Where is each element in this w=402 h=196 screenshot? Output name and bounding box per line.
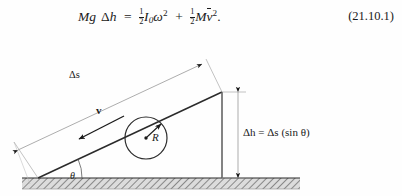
- fraction-numerator: 1: [139, 8, 143, 17]
- equation-number: (21.10.1): [348, 9, 394, 24]
- delta-s-dimension: [14, 59, 222, 184]
- angle-theta-arc: [78, 160, 82, 179]
- equation-gravity-symbol: g: [89, 9, 96, 24]
- ground-surface: [22, 178, 300, 189]
- rolling-disk: [125, 117, 167, 159]
- delta-s-label: Δs: [69, 70, 80, 81]
- equation-period: .: [217, 9, 220, 24]
- figure-page: Mg Δh = 1 2 I0ω2 + 1 2 Mv2. (21.10.1): [0, 0, 402, 196]
- fraction-denominator: 2: [139, 17, 143, 27]
- equation-equals-sign: =: [120, 9, 136, 24]
- equation-expression: Mg Δh = 1 2 I0ω2 + 1 2 Mv2.: [78, 8, 221, 26]
- fraction-numerator: 1: [190, 8, 194, 17]
- equation-one-half-second: 1 2: [190, 8, 194, 26]
- equation-mass-symbol-second: M: [195, 9, 206, 24]
- equation-one-half-first: 1 2: [139, 8, 143, 26]
- theta-label: θ: [70, 171, 75, 181]
- equation-omega-symbol: ω: [153, 9, 163, 24]
- equation-plus-sign: +: [171, 9, 187, 24]
- equation-height-symbol: h: [110, 9, 117, 24]
- equation-row: Mg Δh = 1 2 I0ω2 + 1 2 Mv2. (21.10.1): [0, 8, 402, 34]
- velocity-vector: [79, 116, 124, 139]
- incline-wedge: [38, 92, 222, 178]
- delta-h-label: Δh = Δs (sin θ): [243, 127, 310, 138]
- equation-delta-symbol: Δ: [101, 9, 110, 24]
- velocity-label: v: [96, 105, 102, 116]
- fraction-denominator: 2: [190, 17, 194, 27]
- inclined-plane-diagram: Δs v R Δh = Δs (sin θ) θ: [0, 34, 402, 196]
- equation-mass-symbol: M: [78, 9, 89, 24]
- equation-velocity-symbol: v: [207, 9, 213, 25]
- radius-label: R: [152, 132, 159, 143]
- equation-omega-exponent: 2: [163, 8, 168, 18]
